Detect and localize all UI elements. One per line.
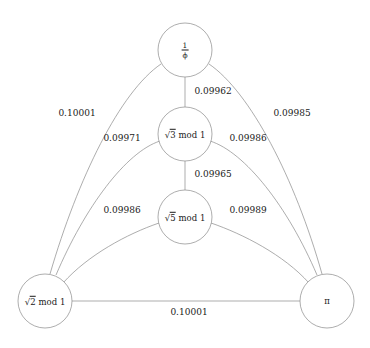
nodes-layer — [18, 23, 354, 328]
graph-node-label: 1ϕ — [182, 42, 189, 59]
edges-layer — [50, 64, 322, 301]
edge-weight-label: 0.10001 — [170, 308, 207, 317]
node-label-text: π — [324, 296, 330, 306]
mod-suffix: mod 1 — [39, 296, 66, 306]
graph-node-label: √5mod 1 — [165, 212, 206, 222]
edge-weight-label: 0.09986 — [229, 134, 266, 143]
edge-weight-label: 0.09985 — [273, 109, 310, 118]
edge-weight-label: 0.09989 — [229, 206, 266, 215]
graph-edge — [63, 223, 159, 283]
fraction-numerator: 1 — [182, 42, 189, 51]
radicand: 2 — [30, 296, 36, 306]
fraction-denominator: ϕ — [182, 51, 189, 59]
graph-node-label: √3mod 1 — [165, 129, 206, 139]
graph-edge — [50, 64, 161, 274]
edge-weight-label: 0.09986 — [103, 206, 140, 215]
radicand: 3 — [170, 129, 176, 139]
edge-weight-label: 0.09965 — [194, 170, 231, 179]
mod-suffix: mod 1 — [179, 129, 206, 139]
graph-node-label: √2mod 1 — [25, 296, 66, 306]
edge-weight-label: 0.10001 — [58, 109, 95, 118]
radicand: 5 — [170, 212, 176, 222]
edge-weight-label: 0.09971 — [103, 134, 140, 143]
mod-suffix: mod 1 — [179, 212, 206, 222]
graph-figure: 0.100010.099620.099850.099710.099860.099… — [0, 0, 370, 348]
graph-node-label: π — [324, 297, 330, 306]
graph-edge — [211, 223, 309, 283]
edge-weight-label: 0.09962 — [194, 87, 231, 96]
